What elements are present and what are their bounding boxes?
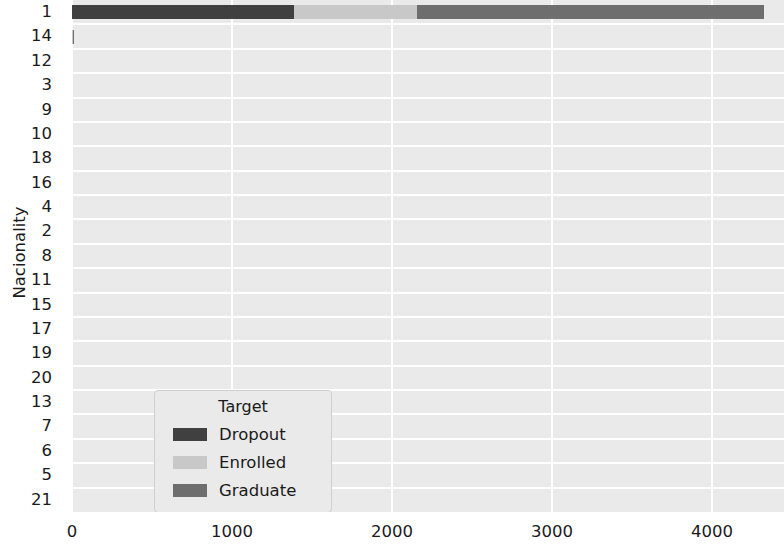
y-tick-label: 18 bbox=[31, 146, 52, 170]
bar-row bbox=[72, 122, 784, 146]
legend: Target DropoutEnrolledGraduate bbox=[154, 390, 332, 512]
bar-row bbox=[72, 195, 784, 219]
y-tick-label: 6 bbox=[42, 439, 53, 463]
bar-row bbox=[72, 98, 784, 122]
bar-segment-graduate bbox=[73, 30, 75, 44]
y-tick-label: 12 bbox=[31, 49, 52, 73]
bar-row bbox=[72, 268, 784, 292]
x-axis-tick-labels: 01000200030004000 bbox=[0, 514, 784, 552]
y-tick-label: 10 bbox=[31, 122, 52, 146]
legend-item: Dropout bbox=[155, 420, 331, 448]
y-tick-label: 16 bbox=[31, 171, 52, 195]
bar-row bbox=[72, 0, 784, 24]
bar-row bbox=[72, 342, 784, 366]
y-tick-label: 17 bbox=[31, 317, 52, 341]
bar-row bbox=[72, 25, 784, 49]
legend-swatch bbox=[173, 484, 207, 497]
bar-row bbox=[72, 293, 784, 317]
bar-row bbox=[72, 317, 784, 341]
x-tick-label: 4000 bbox=[691, 522, 733, 541]
bar-segment-dropout bbox=[72, 5, 294, 19]
bar-row bbox=[72, 73, 784, 97]
x-tick-label: 3000 bbox=[531, 522, 573, 541]
legend-swatch bbox=[173, 456, 207, 469]
legend-title: Target bbox=[155, 397, 331, 416]
y-tick-label: 14 bbox=[31, 24, 52, 48]
bar-row bbox=[72, 49, 784, 73]
y-tick-label: 19 bbox=[31, 341, 52, 365]
legend-item: Graduate bbox=[155, 476, 331, 504]
y-tick-label: 7 bbox=[42, 414, 53, 438]
y-tick-label: 13 bbox=[31, 390, 52, 414]
y-axis-tick-labels: 114123910181642811151719201376521 bbox=[0, 8, 60, 512]
legend-label: Enrolled bbox=[219, 453, 286, 472]
x-tick-label: 2000 bbox=[371, 522, 413, 541]
legend-item: Enrolled bbox=[155, 448, 331, 476]
y-tick-label: 3 bbox=[42, 73, 53, 97]
legend-items: DropoutEnrolledGraduate bbox=[155, 420, 331, 504]
plot-area: Target DropoutEnrolledGraduate bbox=[72, 0, 784, 512]
y-tick-label: 4 bbox=[42, 195, 53, 219]
bar-row bbox=[72, 171, 784, 195]
bar-row bbox=[72, 244, 784, 268]
y-tick-label: 1 bbox=[42, 0, 53, 24]
legend-label: Graduate bbox=[219, 481, 296, 500]
x-tick-label: 1000 bbox=[211, 522, 253, 541]
bar-segment-enrolled bbox=[294, 5, 416, 19]
x-tick-label: 0 bbox=[67, 522, 78, 541]
y-tick-label: 9 bbox=[42, 98, 53, 122]
y-tick-label: 15 bbox=[31, 293, 52, 317]
bar-segment-graduate bbox=[417, 5, 764, 19]
y-tick-label: 8 bbox=[42, 244, 53, 268]
y-tick-label: 20 bbox=[31, 366, 52, 390]
bar-row bbox=[72, 146, 784, 170]
bar-row bbox=[72, 220, 784, 244]
y-tick-label: 11 bbox=[31, 268, 52, 292]
y-tick-label: 21 bbox=[31, 488, 52, 512]
bar-row bbox=[72, 366, 784, 390]
chart-figure: Nacionality 1141239101816428111517192013… bbox=[0, 0, 784, 552]
legend-swatch bbox=[173, 428, 207, 441]
legend-label: Dropout bbox=[219, 425, 286, 444]
y-tick-label: 2 bbox=[42, 219, 53, 243]
y-tick-label: 5 bbox=[42, 463, 53, 487]
